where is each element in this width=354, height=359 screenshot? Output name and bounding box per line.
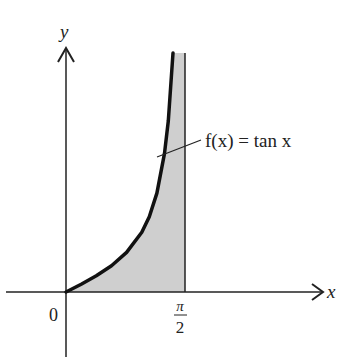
plot-svg: y x 0 f(x) = tan x π 2 xyxy=(0,0,354,359)
y-axis-label: y xyxy=(58,21,69,42)
origin-label: 0 xyxy=(49,305,58,325)
x-axis-label: x xyxy=(326,281,336,302)
shaded-area xyxy=(66,53,185,292)
tick-label-pi: π xyxy=(176,298,184,314)
tick-label-two: 2 xyxy=(176,318,185,337)
function-label: f(x) = tan x xyxy=(205,130,292,152)
tan-area-figure: y x 0 f(x) = tan x π 2 xyxy=(0,0,354,359)
